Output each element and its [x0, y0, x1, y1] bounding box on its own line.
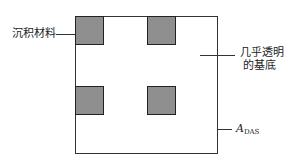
substrate-leader-line — [200, 55, 235, 56]
area-das-label: ADAS — [236, 122, 259, 139]
deposit-square-top-right — [147, 16, 176, 45]
area-subscript: DAS — [244, 128, 259, 136]
area-symbol: A — [236, 122, 244, 135]
substrate-label-line2: 的基底 — [243, 59, 276, 72]
deposit-square-top-left — [75, 16, 104, 45]
deposited-material-label: 沉积材料 — [12, 27, 56, 40]
deposit-square-bottom-right — [147, 86, 176, 115]
substrate-label-line1: 几乎透明 — [240, 46, 284, 59]
deposited-material-leader-line — [56, 34, 75, 35]
area-leader-line — [218, 129, 232, 130]
deposit-square-bottom-left — [75, 86, 104, 115]
